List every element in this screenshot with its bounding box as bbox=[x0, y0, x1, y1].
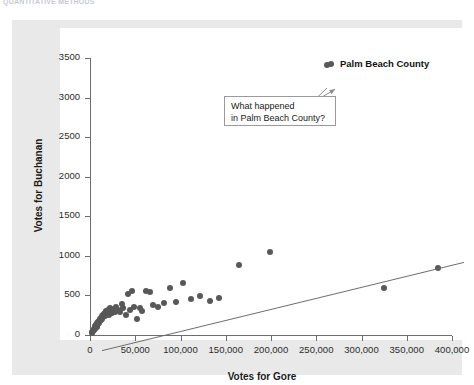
annotation-callout-text: What happened in Palm Beach County? bbox=[231, 101, 325, 124]
outlier-legend-marker-icon bbox=[328, 61, 334, 67]
trend-line bbox=[102, 262, 464, 350]
chart-figure-panel: 0500100015002000250030003500 050,000100,… bbox=[12, 20, 462, 375]
annotation-callout-box: What happened in Palm Beach County? bbox=[224, 96, 336, 126]
chart-vector-layer bbox=[12, 20, 474, 385]
header-text: QUANTITATIVE METHODS bbox=[3, 0, 95, 5]
outlier-label: Palm Beach County bbox=[340, 58, 429, 69]
cropped-page-header: QUANTITATIVE METHODS bbox=[0, 0, 474, 9]
